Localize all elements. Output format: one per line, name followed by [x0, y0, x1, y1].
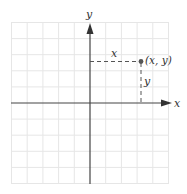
- coordinate-plane-figure: y x x y (x, y): [0, 0, 187, 194]
- x-axis: [11, 100, 172, 107]
- vertical-guide-label: y: [143, 75, 151, 88]
- horizontal-guide-label: x: [111, 47, 118, 60]
- point-marker: [139, 59, 144, 64]
- x-axis-label: x: [174, 97, 181, 110]
- x-axis-arrow-icon: [161, 100, 172, 107]
- point-label: (x, y): [145, 54, 172, 66]
- y-axis-label: y: [85, 8, 93, 21]
- y-axis-arrow-icon: [87, 23, 94, 34]
